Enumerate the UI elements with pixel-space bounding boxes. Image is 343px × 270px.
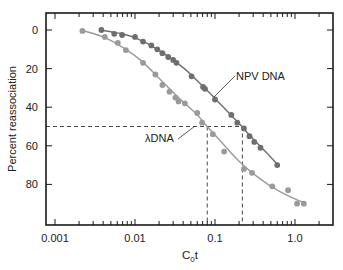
- data-point: [212, 97, 218, 103]
- data-point: [249, 170, 255, 176]
- x-axis-ticks: 0.0010.010.11.0: [41, 13, 319, 244]
- x-tick-label: 0.1: [207, 232, 222, 244]
- data-point: [159, 50, 165, 56]
- y-tick-label: 0: [32, 24, 38, 36]
- data-point: [241, 166, 247, 172]
- data-point: [285, 187, 291, 193]
- data-point: [294, 201, 300, 207]
- x-tick-label: 0.001: [41, 232, 69, 244]
- data-point: [154, 46, 160, 52]
- x-tick-label: 1.0: [287, 232, 302, 244]
- x-axis-label-tail: t: [195, 249, 199, 261]
- data-point: [132, 34, 138, 40]
- data-point: [274, 162, 280, 168]
- data-point: [241, 126, 247, 132]
- data-point: [159, 82, 165, 88]
- data-point: [119, 32, 125, 38]
- reassociation-chart: NPV DNAλDNA 0.0010.010.11.0 020406080 Pe…: [0, 0, 343, 270]
- y-tick-label: 80: [26, 178, 38, 190]
- series-curve-1: [82, 31, 304, 203]
- data-point: [123, 47, 129, 53]
- data-point: [251, 139, 257, 145]
- plot-area: NPV DNAλDNA: [46, 27, 307, 225]
- data-point: [202, 86, 208, 92]
- y-tick-label: 20: [26, 63, 38, 75]
- data-point: [210, 131, 216, 137]
- data-point: [176, 99, 182, 105]
- data-point: [111, 31, 117, 37]
- x-axis-label-main: C: [182, 249, 190, 261]
- y-axis-ticks: 020406080: [26, 24, 333, 190]
- label-leader-line: [178, 126, 195, 139]
- y-tick-label: 60: [26, 140, 38, 152]
- data-point: [234, 120, 240, 126]
- data-point: [189, 73, 195, 79]
- data-point: [165, 54, 171, 60]
- data-point: [79, 28, 85, 34]
- data-point: [174, 60, 180, 66]
- data-point: [269, 183, 275, 189]
- data-point: [182, 100, 188, 106]
- data-point: [98, 27, 104, 33]
- series-label: λDNA: [145, 132, 174, 144]
- data-point: [247, 133, 253, 139]
- data-point: [148, 43, 154, 49]
- data-point: [115, 40, 121, 46]
- data-point: [153, 71, 159, 77]
- data-point: [221, 149, 227, 155]
- y-axis-label: Percent reassociation: [6, 66, 18, 172]
- data-point: [140, 39, 146, 45]
- data-point: [199, 120, 205, 126]
- data-point: [228, 112, 234, 118]
- y-tick-label: 40: [26, 101, 38, 113]
- label-leader-line: [214, 76, 235, 97]
- data-point: [258, 145, 264, 151]
- series-label: NPV DNA: [236, 70, 286, 82]
- data-point: [301, 201, 307, 207]
- data-point: [194, 110, 200, 116]
- data-point: [140, 60, 146, 66]
- data-point: [167, 89, 173, 95]
- data-point: [102, 34, 108, 40]
- x-tick-label: 0.01: [124, 232, 145, 244]
- axes-frame: [46, 13, 333, 225]
- x-axis-label: C0t: [182, 249, 199, 264]
